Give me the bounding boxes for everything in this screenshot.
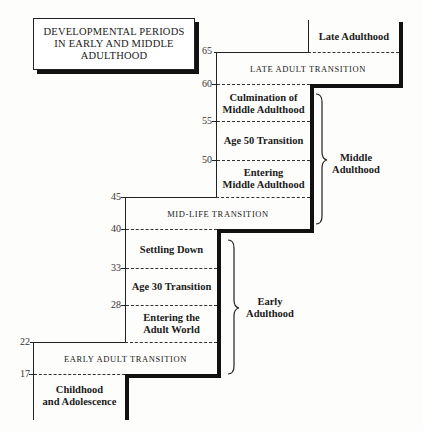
age-label-60: 60 xyxy=(190,78,212,89)
age-label-55: 55 xyxy=(190,115,212,126)
early-adulthood-brace-icon xyxy=(226,238,242,376)
tick-60 xyxy=(212,84,216,85)
age-label-50: 50 xyxy=(190,154,212,165)
age-label-65: 65 xyxy=(190,45,212,56)
age-label-17: 17 xyxy=(8,368,30,379)
period-settling-down: Settling Down xyxy=(126,231,217,268)
tick-33 xyxy=(121,268,125,269)
age-line-40 xyxy=(126,229,217,230)
tick-55 xyxy=(212,121,216,122)
tick-50 xyxy=(212,160,216,161)
period-culmination-middle-adulthood: Culmination ofMiddle Adulthood xyxy=(217,86,310,121)
period-age-50-transition: Age 50 Transition xyxy=(217,122,310,160)
period-mid-life-transition: MID-LIFE TRANSITION xyxy=(126,198,310,229)
age-label-22: 22 xyxy=(8,336,30,347)
period-early-adult-transition: EARLY ADULT TRANSITION xyxy=(34,343,217,374)
early-era-line-2: Adulthood xyxy=(243,308,297,320)
period-late-adult-transition: LATE ADULT TRANSITION xyxy=(217,53,399,84)
title-line-3: ADULTHOOD xyxy=(44,50,185,62)
entering-middle-line-1: Entering xyxy=(223,167,305,179)
late-adulthood-right-edge xyxy=(399,22,403,88)
title-line-2: IN EARLY AND MIDDLE xyxy=(44,38,185,50)
period-entering-middle-adulthood: EnteringMiddle Adulthood xyxy=(217,161,310,197)
tick-40 xyxy=(121,229,125,230)
entering-adult-line-2: Adult World xyxy=(143,324,200,336)
childhood-line-2: and Adolescence xyxy=(43,396,117,408)
diagram-title-box: DEVELOPMENTAL PERIODS IN EARLY AND MIDDL… xyxy=(33,18,195,70)
early-transition-bottom-edge xyxy=(125,374,221,378)
entering-middle-line-2: Middle Adulthood xyxy=(223,179,305,191)
period-entering-adult-world: Entering theAdult World xyxy=(126,306,217,342)
childhood-line-1: Childhood xyxy=(43,384,117,396)
age-line-17 xyxy=(34,374,125,375)
age-label-28: 28 xyxy=(99,299,121,310)
age-label-33: 33 xyxy=(99,262,121,273)
period-late-adulthood: Late Adulthood xyxy=(309,22,399,52)
culmination-line-2: Middle Adulthood xyxy=(223,104,305,116)
middle-adulthood-brace-icon xyxy=(314,92,330,226)
era-early-adulthood-label: Early Adulthood xyxy=(243,296,297,320)
era-middle-adulthood-label: Middle Adulthood xyxy=(330,152,382,176)
age-line-60 xyxy=(217,84,310,85)
mid-life-bottom-edge xyxy=(217,229,314,233)
culmination-line-1: Culmination of xyxy=(223,92,305,104)
title-line-1: DEVELOPMENTAL PERIODS xyxy=(44,26,185,38)
entering-adult-line-1: Entering the xyxy=(143,312,200,324)
age-label-40: 40 xyxy=(99,223,121,234)
period-age-30-transition: Age 30 Transition xyxy=(126,269,217,305)
lower-column-right-edge xyxy=(217,229,221,378)
period-childhood-adolescence: Childhoodand Adolescence xyxy=(34,378,125,414)
tick-17 xyxy=(29,374,33,375)
early-era-line-1: Early xyxy=(243,296,297,308)
tick-28 xyxy=(121,305,125,306)
late-transition-bottom-edge xyxy=(310,84,403,88)
middle-era-line-2: Adulthood xyxy=(330,164,382,176)
middle-era-line-1: Middle xyxy=(330,152,382,164)
age-label-45: 45 xyxy=(99,191,121,202)
bottom-column-right-edge xyxy=(125,374,129,420)
